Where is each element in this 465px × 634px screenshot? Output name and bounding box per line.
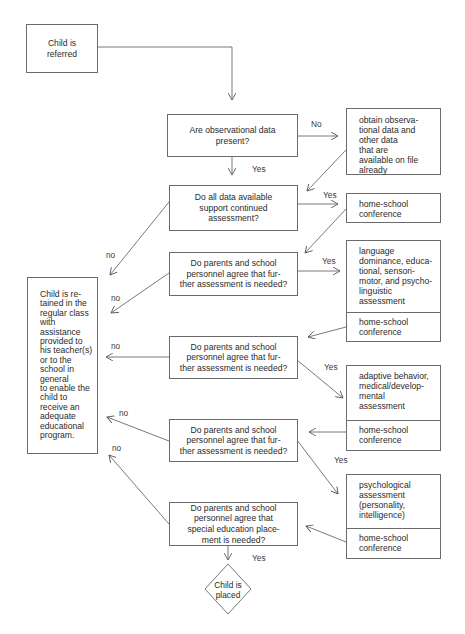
start-node-text: Child is referred <box>47 38 77 59</box>
decision-further-assessment-3: Do parents and school personnel agree th… <box>169 419 298 462</box>
action-home-school-conference-4: home-school conference <box>347 529 440 553</box>
edge-label-q1-no: No <box>311 119 322 129</box>
action-psychological-assessment: psychological assessment (personality, i… <box>347 475 440 529</box>
edge-label-q5-yes: Yes <box>334 455 348 465</box>
action-text: language dominance, educa- tional, senso… <box>359 246 432 306</box>
action-home-school-conference-1: home-school conference <box>346 193 441 223</box>
decision-text: Do parents and school personnel agree th… <box>187 503 279 545</box>
decision-text: Do all data available support continued … <box>195 192 272 224</box>
start-node: Child is referred <box>26 24 98 73</box>
action-obtain-data: obtain observa- tional data and other da… <box>346 108 441 175</box>
edge-label-q3-no: no <box>111 293 120 303</box>
action-psychological-assessment-group: psychological assessment (personality, i… <box>346 474 441 559</box>
edge-label-q3-yes: Yes <box>322 256 336 266</box>
action-home-school-conference-2: home-school conference <box>347 313 440 337</box>
decision-observational-data: Are observational data present? <box>167 114 298 157</box>
action-language-assessment-group: language dominance, educa- tional, senso… <box>346 240 441 342</box>
edge-label-q4-no: no <box>111 341 120 351</box>
decision-further-assessment-1: Do parents and school personnel agree th… <box>169 252 298 296</box>
outcome-retained-in-regular-class: Child is re- tained in the regular class… <box>27 277 98 454</box>
action-home-school-conference-3: home-school conference <box>347 421 440 445</box>
action-text: obtain observa- tional data and other da… <box>359 115 418 175</box>
edge-label-q6-yes: Yes <box>252 553 266 563</box>
end-node-text: Child is placed <box>214 580 241 600</box>
decision-text: Do parents and school personnel agree th… <box>180 425 288 457</box>
action-text: adaptive behavior, medical/develop- ment… <box>359 371 429 411</box>
edge-label-q2-yes: Yes <box>323 190 337 200</box>
edge-label-q2-no: no <box>106 250 115 260</box>
decision-further-assessment-2: Do parents and school personnel agree th… <box>169 336 298 379</box>
edge-label-q4-yes: Yes <box>324 362 338 372</box>
action-text: psychological assessment (personality, i… <box>359 480 411 520</box>
action-text: home-school conference <box>359 199 408 219</box>
decision-text: Are observational data present? <box>190 125 276 146</box>
edge-label-q5-no: no <box>119 408 128 418</box>
edge-label-q1-yes: Yes <box>252 164 266 174</box>
action-text: home-school conference <box>359 533 408 553</box>
end-node-child-placed: Child is placed <box>205 580 251 600</box>
decision-special-education-placement: Do parents and school personnel agree th… <box>169 502 298 546</box>
edge-label-q6-no: no <box>112 443 121 453</box>
decision-text: Do parents and school personnel agree th… <box>180 342 288 374</box>
decision-text: Do parents and school personnel agree th… <box>180 258 288 290</box>
action-adaptive-assessment-group: adaptive behavior, medical/develop- ment… <box>346 365 441 451</box>
action-language-assessment: language dominance, educa- tional, senso… <box>347 241 440 313</box>
action-adaptive-assessment: adaptive behavior, medical/develop- ment… <box>347 366 440 421</box>
decision-support-assessment: Do all data available support continued … <box>169 185 298 231</box>
action-text: home-school conference <box>359 317 408 337</box>
outcome-text: Child is re- tained in the regular class… <box>40 289 92 440</box>
action-text: home-school conference <box>359 425 408 445</box>
